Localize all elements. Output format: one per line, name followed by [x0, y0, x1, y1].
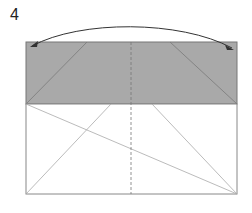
- fold-diagram: [0, 0, 252, 213]
- shaded-strip: [26, 42, 237, 104]
